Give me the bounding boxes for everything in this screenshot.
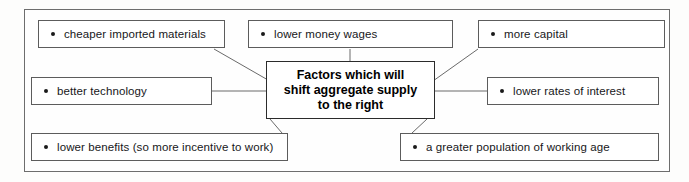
node-center-factors[interactable]: Factors which will shift aggregate suppl…: [266, 61, 435, 119]
connector-greater-population-working-age: [412, 119, 427, 133]
node-lower-rates-of-interest[interactable]: lower rates of interest: [487, 77, 659, 105]
node-cheaper-imported-materials[interactable]: cheaper imported materials: [38, 20, 225, 48]
connector-more-capital: [433, 49, 478, 81]
diagram-root: cheaper imported materials lower money w…: [0, 0, 689, 182]
connector-cheaper-imported-materials: [214, 49, 268, 80]
center-line-2: shift aggregate supply: [284, 83, 417, 98]
node-label: lower benefits (so more incentive to wor…: [57, 141, 273, 153]
connector-lower-benefits: [270, 119, 282, 133]
node-better-technology[interactable]: better technology: [31, 77, 212, 105]
node-label: more capital: [504, 28, 568, 40]
node-label: a greater population of working age: [426, 141, 610, 153]
center-line-1: Factors which will: [297, 68, 405, 83]
bullet-dot-icon: [51, 32, 55, 36]
center-line-3: to the right: [318, 98, 383, 113]
node-label: lower rates of interest: [513, 85, 625, 97]
bullet-dot-icon: [44, 145, 48, 149]
bullet-dot-icon: [261, 32, 265, 36]
bullet-dot-icon: [500, 89, 504, 93]
node-more-capital[interactable]: more capital: [478, 20, 665, 48]
node-label: better technology: [57, 85, 147, 97]
node-label: cheaper imported materials: [64, 28, 206, 40]
bullet-dot-icon: [44, 89, 48, 93]
bullet-dot-icon: [491, 32, 495, 36]
node-lower-money-wages[interactable]: lower money wages: [248, 20, 453, 48]
node-label: lower money wages: [274, 28, 377, 40]
node-greater-population-working-age[interactable]: a greater population of working age: [400, 133, 659, 161]
node-lower-benefits[interactable]: lower benefits (so more incentive to wor…: [31, 133, 288, 161]
bullet-dot-icon: [413, 145, 417, 149]
